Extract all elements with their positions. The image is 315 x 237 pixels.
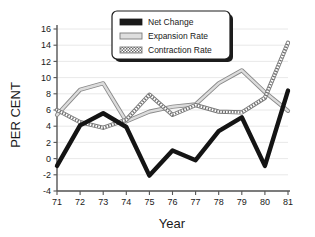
legend-label: Expansion Rate [148,31,208,41]
y-tick-label: -4 [43,186,51,196]
x-tick-label: 78 [214,197,224,207]
y-tick-label: 12 [41,57,51,67]
x-tick-label: 76 [167,197,177,207]
y-tick-label: 0 [46,154,51,164]
x-axis-title: Year [159,216,186,231]
chart-container: -4-20246810121416 7172737475767778798081… [0,0,315,237]
y-tick-label: 8 [46,89,51,99]
y-tick-label: 4 [46,121,51,131]
line-chart: -4-20246810121416 7172737475767778798081… [0,0,315,237]
legend-swatch-contraction-rate [120,47,142,53]
x-tick-label: 77 [191,197,201,207]
y-tick-label: 6 [46,105,51,115]
legend-label: Contraction Rate [148,45,212,55]
y-tick-label: 14 [41,40,51,50]
chart-legend: Net ChangeExpansion RateContraction Rate [112,11,233,62]
y-axis-title: PER CENT [8,82,23,148]
y-tick-label: 2 [46,138,51,148]
x-tick-label: 74 [121,197,131,207]
x-tick-label: 79 [237,197,247,207]
legend-swatch-net-change [120,19,142,25]
y-tick-label: -2 [43,170,51,180]
x-tick-label: 80 [260,197,270,207]
legend-label: Net Change [148,17,194,27]
x-tick-label: 73 [98,197,108,207]
x-tick-label: 71 [52,197,62,207]
legend-swatch-expansion-rate [120,33,142,39]
x-tick-label: 81 [283,197,293,207]
x-tick-label: 72 [75,197,85,207]
y-tick-label: 16 [41,24,51,34]
x-tick-label: 75 [144,197,154,207]
y-tick-label: 10 [41,73,51,83]
